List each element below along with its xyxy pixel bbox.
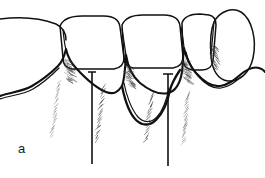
figure-container: a	[0, 0, 265, 178]
panel-label-a: a	[18, 142, 25, 155]
periodontal-pocket-illustration	[0, 0, 265, 178]
figure-background	[0, 0, 265, 178]
